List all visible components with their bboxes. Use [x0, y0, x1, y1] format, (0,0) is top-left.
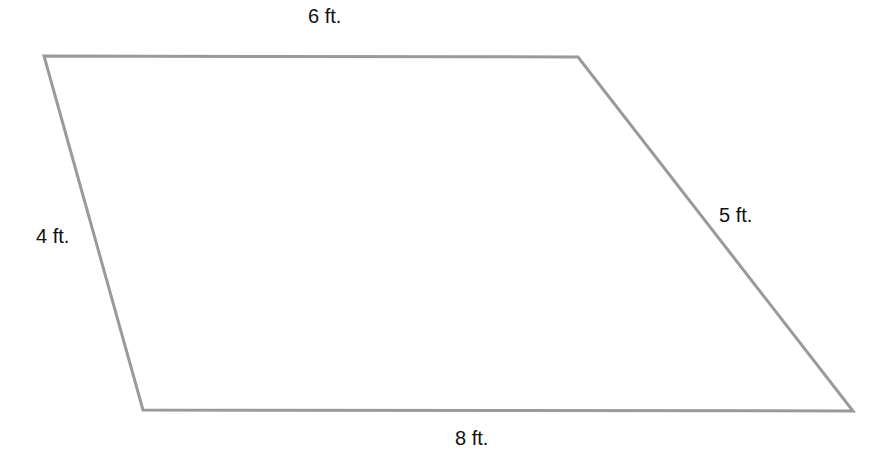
left-side-label: 4 ft.	[36, 226, 69, 246]
bottom-side-label: 8 ft.	[455, 428, 488, 448]
right-side-label: 5 ft.	[719, 205, 752, 225]
top-side-label: 6 ft.	[308, 6, 341, 26]
quadrilateral-diagram	[0, 0, 890, 469]
quadrilateral-shape	[44, 56, 853, 411]
